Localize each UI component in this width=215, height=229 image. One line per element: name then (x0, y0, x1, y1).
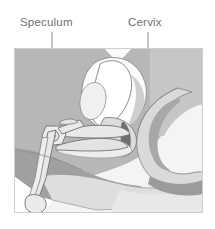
speculum-thumb-rest (25, 195, 46, 214)
illustration-panel (14, 48, 203, 213)
illustration-figure: Speculum Cervix (0, 0, 215, 229)
anatomy-illustration-svg: Speculum Cervix (0, 0, 215, 229)
label-speculum: Speculum (20, 16, 73, 28)
label-cervix: Cervix (128, 16, 162, 28)
